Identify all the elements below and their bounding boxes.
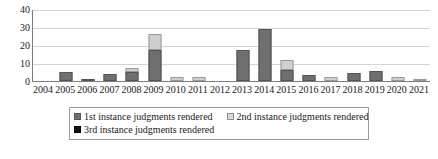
bar-stack (148, 34, 161, 81)
y-tick-label: 20 (8, 41, 30, 51)
bar-stack (170, 77, 183, 82)
bars-layer (33, 10, 430, 81)
y-tick-label: 0 (8, 77, 30, 87)
bar-segment[interactable] (259, 29, 272, 81)
bar-stack (192, 77, 205, 82)
x-tick-label: 2011 (187, 84, 209, 96)
x-tick-label: 2006 (76, 84, 98, 96)
bar-segment[interactable] (281, 60, 294, 70)
legend-item-1st-instance[interactable]: 1st instance judgments rendered (74, 110, 213, 123)
bar-segment[interactable] (192, 77, 205, 82)
plot-area (32, 10, 430, 82)
bar-group[interactable] (320, 10, 342, 81)
x-axis-tick-labels: 2004200520062007200820092010201120122013… (32, 84, 430, 98)
bar-stack (237, 50, 250, 81)
x-tick-label: 2009 (143, 84, 165, 96)
x-tick-label: 2019 (364, 84, 386, 96)
bar-stack (325, 77, 338, 82)
series-3-swatch-icon (74, 126, 81, 133)
x-tick-label: 2016 (297, 84, 319, 96)
bar-group[interactable] (232, 10, 254, 81)
legend-row-bottom: 3rd instance judgments rendered (74, 123, 364, 136)
bar-segment[interactable] (170, 77, 183, 82)
bar-group[interactable] (254, 10, 276, 81)
x-tick-label: 2015 (275, 84, 297, 96)
bar-stack (259, 29, 272, 81)
bar-stack (369, 71, 382, 81)
bar-segment[interactable] (325, 77, 338, 82)
y-axis-tick-labels: 010203040 (8, 6, 30, 82)
bar-group[interactable] (409, 10, 431, 81)
y-tick-label: 40 (8, 5, 30, 15)
bar-segment[interactable] (413, 79, 426, 81)
bar-group[interactable] (99, 10, 121, 81)
bar-stack (104, 74, 117, 81)
x-tick-label: 2013 (231, 84, 253, 96)
bar-group[interactable] (166, 10, 188, 81)
legend-label-2nd-instance: 2nd instance judgments rendered (237, 110, 369, 123)
bar-stack (413, 79, 426, 81)
series-2-swatch-icon (227, 113, 234, 120)
bar-stack (281, 60, 294, 81)
bar-group[interactable] (77, 10, 99, 81)
bar-stack (347, 73, 360, 81)
bar-group[interactable] (343, 10, 365, 81)
plot-wrapper: 010203040 200420052006200720082009201020… (0, 0, 438, 100)
bar-stack (391, 77, 404, 81)
x-tick-label: 2018 (342, 84, 364, 96)
legend-label-1st-instance: 1st instance judgments rendered (84, 110, 213, 123)
x-tick-label: 2005 (54, 84, 76, 96)
x-tick-label: 2020 (386, 84, 408, 96)
bar-group[interactable] (144, 10, 166, 81)
bar-segment[interactable] (369, 71, 382, 81)
x-tick-label: 2007 (98, 84, 120, 96)
bar-segment[interactable] (60, 72, 73, 81)
bar-segment[interactable] (82, 79, 95, 81)
bar-stack (82, 79, 95, 81)
bar-group[interactable] (365, 10, 387, 81)
bar-group[interactable] (55, 10, 77, 81)
bar-chart: 010203040 200420052006200720082009201020… (0, 0, 438, 159)
chart-legend: 1st instance judgments rendered 2nd inst… (69, 107, 369, 140)
bar-stack (60, 72, 73, 81)
y-tick-label: 30 (8, 23, 30, 33)
series-1-swatch-icon (74, 113, 81, 120)
bar-stack (303, 75, 316, 81)
bar-group[interactable] (121, 10, 143, 81)
x-tick-label: 2017 (319, 84, 341, 96)
x-tick-label: 2008 (120, 84, 142, 96)
legend-row-top: 1st instance judgments rendered 2nd inst… (74, 110, 364, 123)
x-tick-label: 2004 (32, 84, 54, 96)
x-tick-label: 2014 (253, 84, 275, 96)
bar-segment[interactable] (303, 75, 316, 81)
bar-stack (126, 68, 139, 81)
x-tick-label: 2012 (209, 84, 231, 96)
bar-group[interactable] (387, 10, 409, 81)
bar-segment[interactable] (347, 73, 360, 81)
bar-segment[interactable] (148, 34, 161, 50)
legend-item-2nd-instance[interactable]: 2nd instance judgments rendered (227, 110, 369, 123)
bar-group[interactable] (298, 10, 320, 81)
bar-segment[interactable] (281, 70, 294, 81)
bar-segment[interactable] (237, 50, 250, 81)
x-tick-label: 2010 (165, 84, 187, 96)
bar-segment[interactable] (148, 50, 161, 81)
bar-segment[interactable] (104, 74, 117, 81)
bar-segment[interactable] (391, 77, 404, 81)
legend-item-3rd-instance[interactable]: 3rd instance judgments rendered (74, 123, 214, 136)
y-tick-label: 10 (8, 59, 30, 69)
bar-group[interactable] (276, 10, 298, 81)
bar-group[interactable] (210, 10, 232, 81)
bar-group[interactable] (33, 10, 55, 81)
bar-segment[interactable] (126, 72, 139, 81)
bar-group[interactable] (188, 10, 210, 81)
x-tick-label: 2021 (408, 84, 430, 96)
legend-label-3rd-instance: 3rd instance judgments rendered (84, 123, 214, 136)
